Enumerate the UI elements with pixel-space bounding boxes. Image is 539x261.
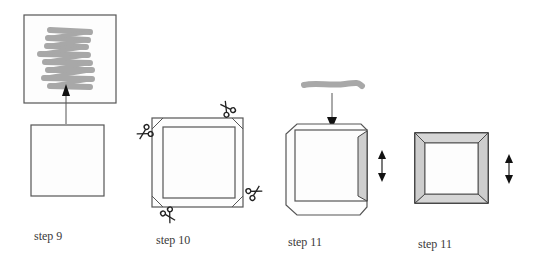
folding-diagram (0, 0, 539, 261)
step-9-label: step 9 (34, 229, 62, 244)
step-11b-figure (415, 133, 513, 203)
frame-left-bevel (415, 133, 425, 203)
frame-window (425, 143, 478, 194)
frame-right-bevel (478, 133, 488, 203)
step-10-label: step 10 (156, 233, 190, 248)
folded-right-flap (358, 131, 367, 201)
paper-square (31, 125, 104, 196)
up-down-arrow-icon (378, 150, 386, 182)
frame-bottom-bevel (415, 194, 488, 203)
step-11a-label: step 11 (288, 235, 322, 250)
frame-top-bevel (415, 133, 488, 143)
up-down-arrow-icon (505, 154, 513, 184)
step-11a-figure (286, 83, 386, 215)
glue-strip (304, 83, 362, 86)
step-10-figure (135, 99, 264, 225)
scissors-icon (245, 183, 264, 201)
step-11b-label: step 11 (418, 237, 452, 252)
scissors-icon (218, 99, 237, 118)
inner-square (163, 127, 235, 198)
step-9-figure (24, 15, 116, 196)
scissors-icon (135, 124, 154, 142)
scissors-icon (160, 206, 178, 225)
inner-square (295, 130, 367, 201)
